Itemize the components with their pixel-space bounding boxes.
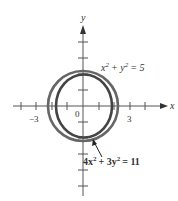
x-tick-label-neg3: −3 <box>29 114 39 124</box>
origin-label: 0 <box>75 109 80 119</box>
graph: y x 0 −3 3 x2+ y2= 5 4x2+ 3y2= 11 <box>0 0 178 201</box>
ellipse-equation-label: 4x2+ 3y2= 11 <box>83 155 140 167</box>
x-tick-label-3: 3 <box>127 114 132 124</box>
x-axis-label: x <box>169 100 175 111</box>
y-axis-label: y <box>80 12 86 23</box>
x-axis-arrow-icon <box>160 103 168 109</box>
y-axis-arrow-icon <box>80 25 86 34</box>
circle-equation-label: x2+ y2= 5 <box>100 61 144 73</box>
